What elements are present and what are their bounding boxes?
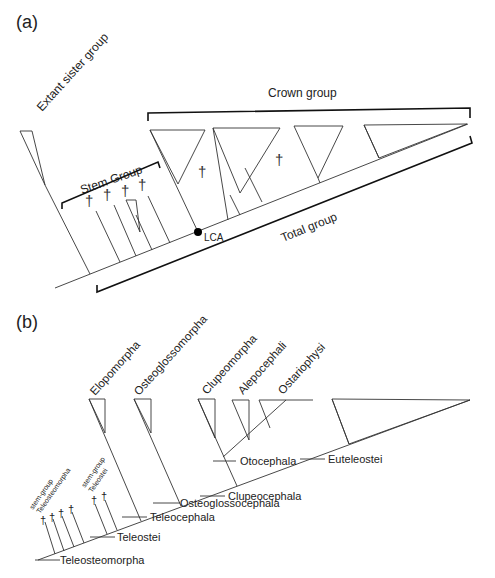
total-group-label: Total group (279, 209, 340, 244)
lca-node (194, 228, 202, 236)
svg-text:†: † (49, 511, 55, 523)
node-clupeocephala: Clupeocephala (228, 490, 302, 502)
clade-osteoglossomorpha: Osteoglossomorpha (132, 312, 210, 397)
node-euteleostei: Euteleostei (328, 453, 382, 465)
node-teleosteomorpha: Teleosteomorpha (60, 554, 145, 566)
svg-text:†: † (121, 182, 129, 199)
node-teleocephala: Teleocephala (150, 511, 216, 523)
svg-text:†: † (275, 151, 283, 168)
phylogeny-diagram: (a) Extant sister group Crown group Stem… (0, 0, 495, 578)
node-teleostei: Teleostei (117, 531, 160, 543)
lca-label: LCA (204, 232, 224, 243)
svg-text:†: † (198, 163, 206, 180)
svg-text:†: † (40, 514, 46, 526)
node-otocephala: Otocephala (240, 455, 297, 467)
total-group-bracket (97, 136, 472, 292)
svg-text:†: † (138, 176, 146, 193)
svg-text:†: † (85, 192, 93, 209)
extant-sister-group-label: Extant sister group (34, 30, 112, 114)
svg-text:†: † (103, 186, 111, 203)
svg-text:†: † (58, 507, 64, 519)
svg-text:†: † (101, 490, 107, 502)
svg-text:†: † (68, 503, 74, 515)
svg-text:†: † (91, 494, 97, 506)
panel-a-label: (a) (16, 12, 38, 32)
crown-group-bracket (148, 108, 470, 121)
panel-b-label: (b) (16, 312, 38, 332)
crown-group-label: Crown group (268, 86, 337, 100)
